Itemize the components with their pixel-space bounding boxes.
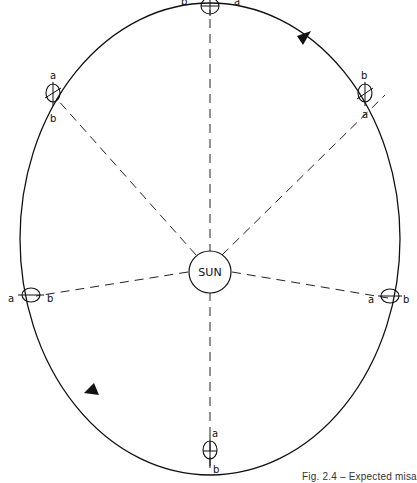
label-b-right: b: [403, 294, 409, 305]
ray-left: [36, 272, 188, 296]
label-b-bottom: b: [213, 464, 219, 475]
label-a-upper-left: a: [50, 70, 56, 81]
label-a-upper-right: a: [362, 109, 368, 120]
label-a-left: a: [8, 293, 14, 304]
sight-lines: [36, 10, 388, 470]
marker-left: a b: [8, 288, 53, 304]
label-a-right: a: [368, 294, 374, 305]
label-a-bottom: a: [212, 428, 218, 439]
label-b-upper-right: b: [361, 70, 367, 81]
ray-upper-right: [222, 95, 385, 255]
label-b-top: b: [181, 0, 187, 7]
marker-bottom: a b: [203, 428, 219, 475]
ray-right: [232, 272, 388, 298]
lower-left-arrow-icon: [84, 383, 99, 395]
label-b-upper-left: b: [50, 113, 56, 124]
sun-label: SUN: [198, 266, 221, 279]
label-a-top: a: [234, 0, 240, 7]
marker-right: a b: [368, 289, 409, 305]
figure-caption: Fig. 2.4 – Expected misa: [302, 471, 417, 482]
ray-upper-left: [56, 98, 196, 255]
label-b-left: b: [47, 293, 53, 304]
